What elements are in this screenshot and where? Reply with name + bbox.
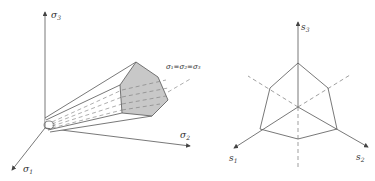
sigma2-axis [45, 128, 190, 146]
s2-axis [298, 107, 368, 147]
s3-label: s3 [301, 22, 310, 33]
deviatoric-plane-figure: s3 s2 s1 [229, 22, 368, 168]
principal-stress-space-figure: σ3 σ2 σ1 σ₁=σ₂=σ₃ [12, 10, 201, 175]
sigma1-label: σ1 [23, 164, 33, 175]
sigma3-label: σ3 [51, 10, 61, 21]
s1-axis [234, 107, 298, 148]
sigma2-label: σ2 [180, 130, 190, 141]
yield-surface-diagram: σ3 σ2 σ1 σ₁=σ₂=σ₃ s3 s2 s1 [0, 0, 375, 181]
deviatoric-hexagon [260, 63, 337, 139]
s1-label: s1 [229, 153, 237, 164]
s2-label: s2 [356, 152, 365, 163]
hydrostatic-axis-label: σ₁=σ₂=σ₃ [166, 63, 201, 71]
